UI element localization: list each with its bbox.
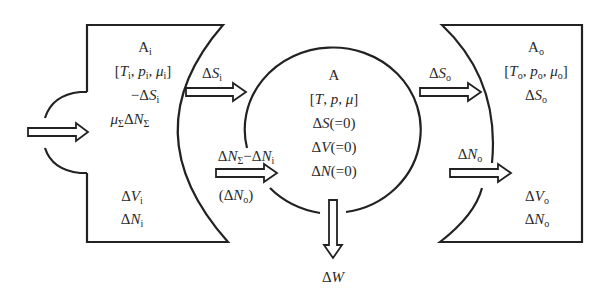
diagram-canvas (0, 0, 602, 300)
system-particle-change: ΔN(=0) (311, 162, 357, 180)
system-volume-change: ΔV(=0) (312, 138, 357, 156)
inflow-arrow (28, 123, 88, 141)
work-arrow (324, 200, 342, 258)
left-reservoir-params: [Ti, pi, μi] (115, 62, 172, 80)
left-reservoir-title: Ai (138, 38, 152, 56)
right-reservoir-params: [To, po, μo] (504, 62, 567, 80)
entropy-o-arrow (420, 83, 481, 101)
particles-o-arrow (450, 164, 511, 182)
left-reservoir-inflow: μΣΔNΣ (111, 110, 150, 128)
right-reservoir-entropy: ΔSo (525, 86, 547, 104)
particle-flow-arrow (216, 164, 277, 182)
work-label: ΔW (322, 268, 344, 286)
right-reservoir-volume: ΔVo (525, 187, 549, 205)
system-title: A (329, 66, 340, 84)
left-reservoir-outline (87, 25, 228, 242)
left-reservoir-entropy: −ΔSi (131, 86, 159, 104)
particle-flow-label: ΔNΣ−ΔNi (218, 147, 274, 165)
entropy-i-label: ΔSi (202, 64, 222, 82)
entropy-o-label: ΔSo (429, 64, 451, 82)
right-reservoir-upper (440, 25, 582, 242)
left-reservoir-particles: ΔNi (121, 210, 143, 228)
left-inlet-bump-bottom (45, 148, 87, 173)
left-reservoir-volume: ΔVi (121, 187, 143, 205)
entropy-i-arrow (186, 83, 246, 101)
system-boundary-lower-left (270, 188, 320, 213)
left-inlet-bump-top (45, 92, 87, 118)
right-reservoir-particles: ΔNo (525, 210, 550, 228)
particle-flow-sublabel: (ΔNo) (219, 186, 254, 204)
system-params: [T, p, μ] (310, 90, 358, 108)
system-entropy-change: ΔS(=0) (312, 114, 355, 132)
right-reservoir-title: Ao (528, 38, 544, 56)
particles-o-label: ΔNo (458, 145, 483, 163)
